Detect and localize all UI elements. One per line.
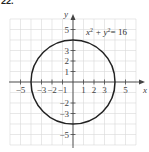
y-tick-label: 2 bbox=[65, 56, 70, 66]
y-tick-label: −3 bbox=[59, 109, 69, 119]
x-tick-label: 3 bbox=[102, 85, 107, 95]
y-tick-label: −2 bbox=[59, 98, 69, 108]
x-tick-label: −1 bbox=[58, 85, 68, 95]
x-axis-arrow-icon bbox=[139, 80, 145, 85]
y-tick-label: 1 bbox=[65, 67, 70, 77]
x-tick-label: −3 bbox=[37, 85, 47, 95]
x-tick-label: 2 bbox=[92, 85, 97, 95]
x-tick-label: 1 bbox=[81, 85, 86, 95]
coordinate-plane: −5−3−2−112355321−2−3−5 x y x2 + y2= 16 bbox=[0, 0, 149, 152]
y-axis-arrow-icon bbox=[71, 14, 76, 20]
y-tick-label: 5 bbox=[65, 25, 70, 35]
x-tick-label: 5 bbox=[123, 85, 128, 95]
y-axis-label: y bbox=[63, 9, 68, 19]
y-tick-label: 3 bbox=[65, 46, 70, 56]
x-axis-label: x bbox=[142, 85, 147, 95]
x-tick-label: −5 bbox=[16, 85, 26, 95]
x-tick-label: −2 bbox=[47, 85, 57, 95]
y-tick-label: −5 bbox=[59, 130, 69, 140]
equation-label: x2 + y2= 16 bbox=[85, 27, 127, 37]
